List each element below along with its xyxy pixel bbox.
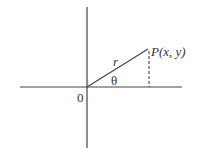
polar-diagram: 0 r θ P(x, y) — [0, 0, 204, 160]
radius-label: r — [113, 54, 119, 69]
point-label: P(x, y) — [150, 44, 186, 59]
origin-label: 0 — [77, 90, 84, 105]
angle-label: θ — [111, 73, 117, 88]
